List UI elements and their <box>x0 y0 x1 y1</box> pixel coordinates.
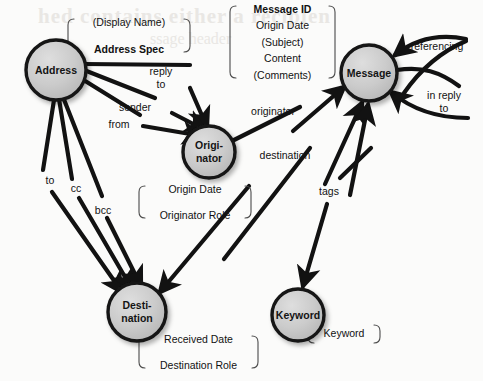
edge-label-originator: originator <box>251 105 295 117</box>
edge-label-line: originator <box>251 105 295 117</box>
bracket-right <box>329 6 335 78</box>
attribute-line: Keyword <box>324 327 365 339</box>
node-label: nation <box>121 312 153 324</box>
attribute-box-address-attrs: (Display Name)Address Spec <box>68 16 190 55</box>
edge-label-tags: tags <box>319 185 339 197</box>
edge-label-bcc: bcc <box>95 204 111 216</box>
edge-label-line: in reply <box>427 89 462 101</box>
edge-label-referencing: referencing <box>411 40 464 52</box>
node-message[interactable]: Message <box>341 45 397 101</box>
attribute-box-message-attrs: Message IDOrigin Date(Subject)Content(Co… <box>230 3 335 81</box>
edge-keyword-message-tags <box>303 148 371 286</box>
attribute-line: (Subject) <box>261 36 303 48</box>
edge-label-line: to <box>440 102 449 114</box>
edge-originator-destination <box>160 186 249 292</box>
bracket-left <box>139 186 145 218</box>
attribute-line: Origin Date <box>168 183 221 195</box>
node-destination[interactable]: Desti-nation <box>108 283 166 341</box>
attribute-box-destination-attrs: Received DateDestination Role <box>139 333 258 371</box>
node-label: Desti- <box>122 299 152 311</box>
bracket-right <box>184 19 190 52</box>
bracket-right <box>374 325 380 343</box>
attribute-line: Destination Role <box>160 359 237 371</box>
edge-label-sender: sender <box>119 101 152 113</box>
attribute-line: Received Date <box>164 333 233 345</box>
node-address[interactable]: Address <box>26 40 86 100</box>
attribute-line: (Comments) <box>254 69 312 81</box>
edge-label-destination: destination <box>260 149 311 161</box>
edge-label-reply-to: replyto <box>150 65 174 90</box>
edge-label-in-reply-to: in replyto <box>427 89 462 114</box>
diagram-canvas: hed contains either a recipien ssage hea… <box>0 0 483 381</box>
edge-destination-message-destination <box>224 103 362 259</box>
edge-label-line: tags <box>319 185 339 197</box>
node-label: Keyword <box>276 309 320 321</box>
attribute-line: Originator Role <box>160 209 231 221</box>
edge-label-line: destination <box>260 149 311 161</box>
node-originator[interactable]: Origi-nator <box>183 126 235 178</box>
edge-label-line: referencing <box>411 40 464 52</box>
attribute-line: Content <box>264 52 301 64</box>
bracket-left <box>230 6 236 78</box>
attribute-line: (Display Name) <box>93 16 165 28</box>
edge-message-self-inreplyto <box>391 41 468 118</box>
attribute-line: Message ID <box>254 3 312 15</box>
node-label: Message <box>347 67 392 79</box>
node-label: Origi- <box>195 139 224 151</box>
attribute-line: Address Spec <box>94 43 164 55</box>
node-label: nator <box>196 152 222 164</box>
edge-label-line: cc <box>71 182 82 194</box>
node-label: Address <box>35 64 77 76</box>
edge-label-line: to <box>46 174 55 186</box>
edge-label-line: bcc <box>95 204 111 216</box>
edge-label-to: to <box>46 174 55 186</box>
bracket-right <box>252 336 258 368</box>
edge-label-cc: cc <box>71 182 82 194</box>
edge-label-from: from <box>109 118 130 130</box>
node-keyword[interactable]: Keyword <box>272 289 324 341</box>
attribute-line: Origin Date <box>256 19 309 31</box>
diagram-graphics: (Display Name)Address SpecMessage IDOrig… <box>0 0 483 381</box>
edge-label-line: from <box>109 118 130 130</box>
edge-label-line: reply <box>150 65 174 77</box>
edge-label-line: to <box>157 78 166 90</box>
edge-label-line: sender <box>119 101 152 113</box>
